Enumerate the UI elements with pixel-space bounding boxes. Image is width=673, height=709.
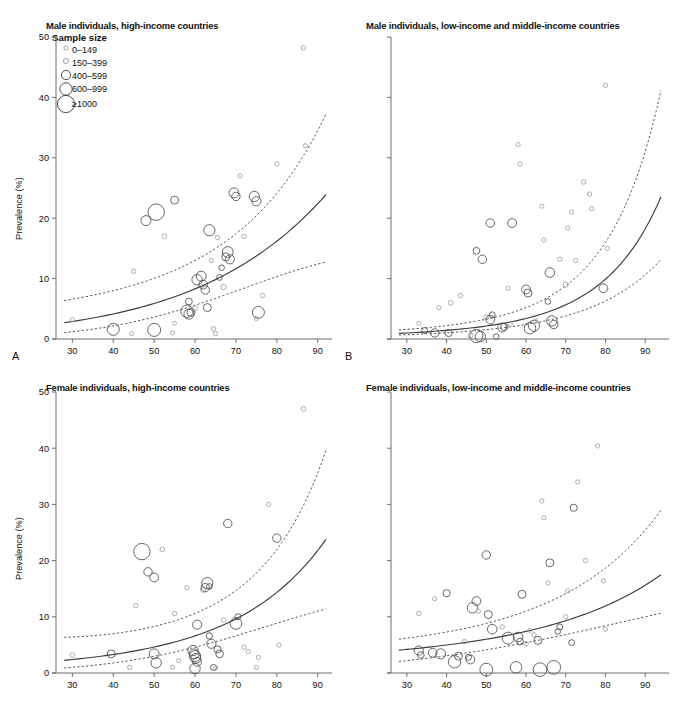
svg-text:80: 80 — [600, 680, 610, 690]
data-point — [605, 246, 609, 250]
svg-text:40: 40 — [39, 93, 49, 103]
data-point — [599, 284, 608, 293]
data-point — [443, 590, 450, 597]
data-point — [545, 299, 551, 305]
data-point — [433, 597, 437, 601]
svg-text:40: 40 — [108, 346, 118, 356]
legend-circle-1 — [63, 58, 68, 63]
svg-text:20: 20 — [39, 556, 49, 566]
data-point — [417, 321, 421, 325]
scatter-plot-d: 30405060708090 — [333, 370, 673, 709]
data-point — [209, 258, 213, 262]
data-point — [252, 306, 264, 318]
data-point — [595, 444, 599, 448]
svg-text:80: 80 — [600, 346, 610, 356]
data-point — [458, 293, 462, 297]
data-point — [542, 516, 546, 520]
scatter-plot-a: 0102030405030405060708090 — [0, 0, 340, 365]
data-point — [545, 268, 555, 278]
data-point — [215, 235, 219, 239]
data-point — [203, 304, 211, 312]
svg-text:80: 80 — [272, 346, 282, 356]
data-point — [134, 543, 150, 559]
data-point — [273, 534, 281, 542]
svg-text:60: 60 — [521, 680, 531, 690]
svg-text:90: 90 — [313, 680, 323, 690]
data-point — [455, 652, 463, 660]
data-point — [589, 206, 593, 210]
data-point — [448, 300, 453, 305]
data-point — [277, 643, 281, 647]
data-point — [130, 331, 134, 335]
data-point — [162, 234, 167, 239]
data-point — [516, 142, 520, 146]
data-point — [107, 323, 119, 335]
data-point — [238, 174, 242, 178]
svg-text:10: 10 — [39, 274, 49, 284]
data-point — [518, 162, 522, 166]
data-point — [219, 265, 225, 271]
svg-text:40: 40 — [39, 444, 49, 454]
data-point — [510, 662, 522, 674]
data-point — [437, 305, 441, 309]
data-point — [177, 659, 181, 663]
data-point — [601, 579, 605, 583]
svg-text:30: 30 — [67, 680, 77, 690]
svg-text:30: 30 — [39, 500, 49, 510]
data-point — [185, 585, 189, 589]
panel-female-high-income: Female individuals, high-income countrie… — [0, 370, 340, 709]
svg-text:20: 20 — [39, 214, 49, 224]
data-point — [192, 275, 202, 285]
data-point — [150, 573, 159, 582]
data-point — [192, 306, 197, 311]
data-point — [148, 323, 161, 336]
data-point — [475, 331, 485, 341]
svg-text:30: 30 — [402, 346, 412, 356]
data-point — [246, 650, 250, 654]
data-point — [489, 312, 495, 318]
svg-text:30: 30 — [402, 680, 412, 690]
data-point — [221, 284, 226, 289]
legend-circle-3 — [60, 83, 72, 95]
data-point — [134, 603, 138, 607]
svg-text:70: 70 — [561, 680, 571, 690]
data-point — [170, 665, 174, 669]
data-point — [160, 547, 165, 552]
data-point — [473, 247, 480, 254]
data-point — [242, 645, 246, 649]
legend-circle-4 — [57, 95, 74, 112]
data-point — [508, 219, 517, 228]
data-point — [570, 504, 577, 511]
data-point — [275, 162, 279, 166]
svg-text:40: 40 — [441, 680, 451, 690]
data-point — [301, 46, 305, 50]
svg-text:40: 40 — [108, 680, 118, 690]
data-point — [232, 192, 240, 200]
svg-text:60: 60 — [190, 346, 200, 356]
data-point — [417, 611, 421, 615]
data-point — [518, 590, 526, 598]
data-point — [566, 226, 570, 230]
data-point — [546, 559, 554, 567]
svg-text:50: 50 — [39, 387, 49, 397]
data-point — [221, 618, 225, 622]
data-point — [581, 180, 585, 184]
data-point — [192, 620, 201, 629]
data-point — [216, 650, 224, 658]
data-point — [542, 238, 546, 242]
data-point — [211, 327, 215, 331]
data-point — [301, 406, 306, 411]
svg-text:60: 60 — [521, 346, 531, 356]
scatter-plot-b: 30405060708090 — [333, 0, 673, 365]
data-point — [148, 204, 164, 220]
data-point — [532, 633, 536, 637]
data-point — [576, 480, 580, 484]
data-point — [199, 280, 208, 289]
data-point — [254, 665, 258, 669]
data-point — [213, 331, 217, 335]
data-point — [533, 663, 547, 677]
data-point — [569, 640, 575, 646]
svg-text:50: 50 — [149, 346, 159, 356]
data-point — [171, 196, 179, 204]
data-point — [266, 502, 270, 506]
